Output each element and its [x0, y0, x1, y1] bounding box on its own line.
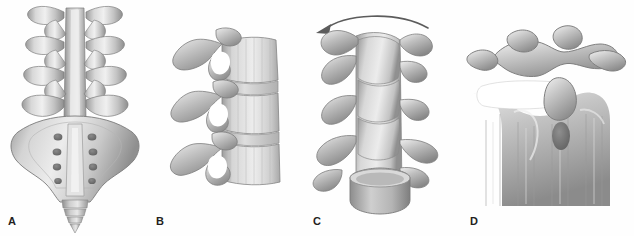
panel-c-illustration [300, 0, 460, 236]
facet-joint-space [552, 122, 570, 150]
articular-process [400, 139, 438, 163]
cut-vertebral-body [350, 168, 410, 214]
vertebral-body [358, 118, 400, 160]
panel-b-illustration [150, 0, 300, 236]
transverse-process [322, 96, 356, 125]
panel-a: A [0, 0, 150, 236]
transverse-process [317, 136, 356, 166]
articular-process [400, 99, 429, 120]
left-processes [313, 31, 358, 192]
transverse-process [321, 31, 358, 56]
panel-d-segment [467, 26, 626, 206]
coccyx [62, 200, 88, 233]
vertebral-mass [470, 92, 610, 206]
transverse-process [322, 56, 356, 85]
articular-process [400, 61, 427, 82]
vertebral-body-stack [358, 37, 400, 160]
vertebral-body [358, 80, 400, 122]
panel-c-vertebral-column [313, 31, 438, 214]
panel-d: D [460, 0, 634, 236]
panel-c: C [300, 0, 460, 236]
panel-d-illustration [460, 0, 634, 236]
panel-b: B [150, 0, 300, 236]
panel-b-vertebrae [170, 28, 280, 185]
spine-figure: A [0, 0, 634, 236]
panel-label-b: B [156, 216, 164, 227]
panel-a-vertebral-column [11, 6, 139, 233]
articular-process [553, 26, 582, 50]
articular-process [400, 34, 432, 56]
panel-label-c: C [313, 216, 321, 227]
panel-label-a: A [8, 216, 16, 227]
panel-a-illustration [0, 0, 150, 236]
transverse-process [467, 50, 498, 70]
right-processes [400, 34, 438, 188]
transverse-process [313, 169, 342, 191]
inferior-articular-process [544, 78, 576, 121]
panel-label-d: D [470, 216, 478, 227]
vertebral-body [358, 37, 400, 84]
